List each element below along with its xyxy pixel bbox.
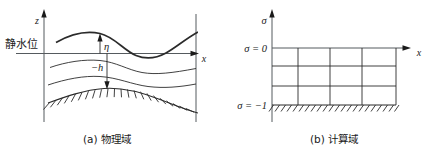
figure-container: z x 静水位 η −h (a) 物理域	[0, 0, 430, 152]
caption-physical-domain: (a) 物理域	[83, 133, 132, 145]
seabed-hatching	[44, 89, 195, 112]
free-surface-curve	[56, 32, 198, 58]
depth-label: −h	[91, 62, 103, 73]
sigma-axis-arrowhead	[269, 9, 274, 18]
still-water-level-label: 静水位	[5, 37, 38, 51]
panel-computational-domain: σ x σ = 0 σ = −1 (b) 计算域	[237, 9, 422, 145]
z-axis-label: z	[34, 15, 39, 26]
bottom-boundary-hatching	[269, 105, 399, 112]
sigma-top-label: σ = 0	[244, 43, 268, 54]
sigma-bottom-label: σ = −1	[237, 100, 267, 111]
eta-label: η	[104, 41, 109, 52]
caption-computational-domain: (b) 计算域	[310, 133, 359, 145]
sigma-axis-label: σ	[261, 15, 267, 26]
z-axis-arrowhead	[41, 9, 46, 18]
sigma-layer-curve-1	[50, 60, 196, 73]
eta-measure-arrow	[97, 33, 102, 53]
x-axis-arrowhead-b	[403, 45, 412, 50]
x-axis-arrowhead-a	[191, 51, 200, 56]
sigma-layer-curve-2	[48, 76, 196, 87]
depth-measure-arrow	[104, 54, 109, 90]
figure-svg: z x 静水位 η −h (a) 物理域	[0, 0, 430, 152]
panel-physical-domain: z x 静水位 η −h (a) 物理域	[5, 9, 207, 145]
x-axis-label-b: x	[416, 47, 422, 58]
x-axis-label-a: x	[201, 53, 207, 64]
seabed-curve	[48, 88, 198, 113]
